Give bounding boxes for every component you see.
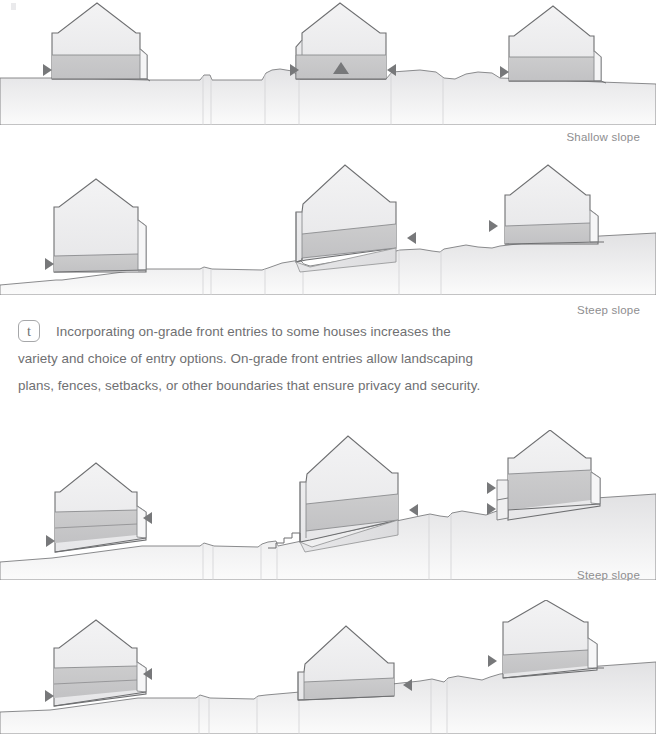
label-shallow-slope: Shallow slope — [450, 131, 640, 143]
row-4-steep-slope — [0, 600, 656, 734]
note-text: Incorporating on-grade front entries to … — [18, 318, 488, 399]
entry-arrow-right — [409, 504, 418, 516]
entry-arrow-upper — [487, 482, 496, 494]
house-2-1 — [45, 179, 146, 272]
label-steep-slope-2: Steep slope — [450, 569, 640, 581]
entry-arrow-left — [46, 535, 55, 547]
label-steep-slope-1: Steep slope — [450, 304, 640, 316]
entry-arrow — [488, 655, 497, 667]
entry-arrow — [500, 66, 509, 78]
note-block: t Incorporating on-grade front entries t… — [18, 318, 488, 399]
house-1-3 — [500, 6, 606, 83]
house-4-1 — [45, 620, 152, 706]
row-3-steep-slope — [0, 430, 656, 580]
row-2-steep-slope — [0, 150, 656, 295]
house-3-3 — [487, 430, 600, 520]
house-1-1 — [43, 3, 150, 81]
entry-arrow — [45, 258, 54, 270]
house-3-1 — [46, 463, 152, 552]
entry-arrow-right — [407, 232, 416, 244]
diagram-page: Shallow slope — [0, 0, 656, 734]
row-1-shallow-slope — [0, 0, 656, 125]
entry-arrow-left — [45, 690, 54, 702]
house-1-2 — [290, 3, 396, 79]
entry-arrow — [43, 64, 52, 76]
note-badge-t: t — [18, 320, 40, 342]
entry-arrow — [489, 220, 498, 232]
house-4-3 — [488, 600, 604, 678]
house-2-3 — [489, 165, 604, 244]
